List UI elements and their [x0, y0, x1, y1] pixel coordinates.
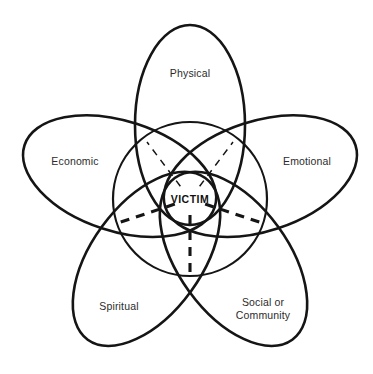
petal-label-spiritual: Spiritual	[99, 300, 138, 313]
petal-label-emotional: Emotional	[283, 155, 331, 168]
petal-diagram: Physical Economic Emotional Spiritual So…	[0, 0, 373, 374]
petal-label-social-or-community: Social or Community	[236, 296, 290, 321]
petal-spiritual	[43, 146, 250, 372]
petal-social-or-community	[130, 146, 337, 372]
spoke-upper-right	[200, 142, 233, 186]
spoke-upper-left	[147, 142, 180, 186]
petal-diagram-graphics	[0, 0, 373, 374]
petal-label-economic: Economic	[51, 155, 98, 168]
center-label-victim: VICTIM	[171, 193, 210, 205]
petal-label-physical: Physical	[170, 67, 210, 80]
